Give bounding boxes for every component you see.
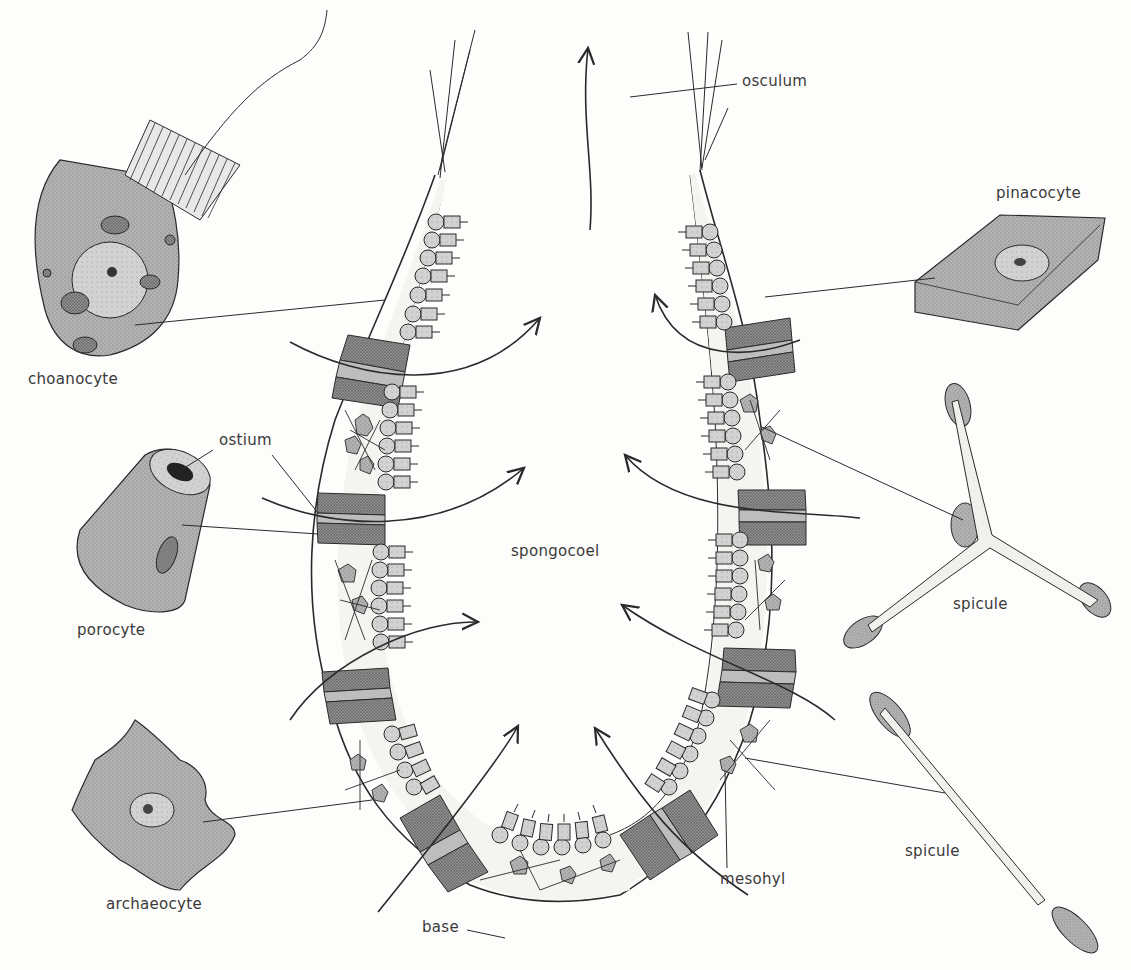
osculum-leader-line — [630, 84, 737, 97]
spicule-triradiate-illustration — [838, 381, 1117, 655]
base-leader-line — [467, 930, 505, 938]
archaeocyte-illustration — [72, 720, 235, 890]
label-choanocyte: choanocyte — [28, 372, 118, 387]
mesohyl-leader-line — [725, 770, 727, 868]
label-spicule-triradiate: spicule — [953, 597, 1008, 612]
spicule-monaxon-leader-line — [745, 758, 945, 793]
label-pinacocyte: pinacocyte — [996, 186, 1081, 201]
label-spongocoel: spongocoel — [511, 544, 600, 559]
osculum-spicules — [430, 30, 728, 178]
label-spicule-monaxon: spicule — [905, 844, 960, 859]
pinacocyte-leader-line — [765, 278, 935, 297]
sponge-anatomy-diagram: choanocyte ostium porocyte archaeocyte o… — [0, 0, 1131, 970]
label-osculum: osculum — [742, 74, 807, 89]
label-archaeocyte: archaeocyte — [106, 897, 202, 912]
label-porocyte: porocyte — [77, 623, 145, 638]
spicule-monaxon-illustration — [863, 686, 1105, 960]
label-mesohyl: mesohyl — [720, 872, 785, 887]
choanocyte-illustration — [35, 10, 327, 356]
osculum-outflow-arrow — [586, 48, 591, 230]
porocyte-leader-line — [182, 525, 318, 534]
archaeocyte-leader-line — [203, 800, 372, 822]
label-ostium: ostium — [219, 433, 272, 448]
label-base: base — [422, 920, 459, 935]
pinacocyte-illustration — [915, 215, 1105, 330]
